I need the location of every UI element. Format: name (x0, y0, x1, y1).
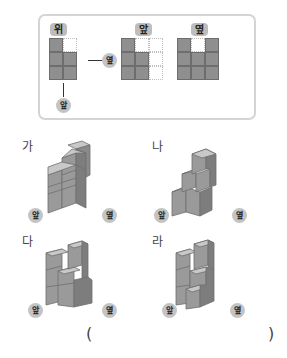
filled-cell (205, 38, 219, 52)
empty-cell (149, 52, 163, 66)
side-marker: 옆 (230, 303, 245, 318)
answer-open-paren: ( (86, 324, 92, 343)
empty-cell (135, 38, 149, 52)
empty-cell (149, 38, 163, 52)
side-marker: 옆 (102, 53, 117, 68)
filled-cell (177, 52, 191, 66)
front-marker: 앞 (56, 98, 71, 113)
empty-cell (149, 66, 163, 80)
filled-cell (135, 52, 149, 66)
filled-cell (205, 66, 219, 80)
filled-cell (121, 66, 135, 80)
side-arrow-icon (88, 60, 102, 61)
front-view-grid (121, 38, 163, 80)
top-view-label: 위 (50, 23, 67, 36)
filled-cell (63, 52, 77, 66)
filled-cell (177, 66, 191, 80)
filled-cell (205, 52, 219, 66)
views-panel: 위 옆 앞 앞 옆 (38, 14, 256, 120)
filled-cell (191, 66, 205, 80)
filled-cell (49, 52, 63, 66)
side-view-grid (177, 38, 219, 80)
front-marker: 앞 (154, 208, 169, 223)
answer-close-paren: ) (268, 324, 274, 343)
front-marker: 앞 (28, 303, 43, 318)
filled-cell (63, 66, 77, 80)
filled-cell (49, 38, 63, 52)
front-marker: 앞 (162, 303, 177, 318)
answer-blank[interactable] (100, 324, 260, 346)
option-ra-figure[interactable]: 앞 옆 (150, 235, 260, 325)
top-view-grid (49, 38, 77, 80)
option-ga-figure[interactable]: 앞 옆 (20, 140, 130, 230)
filled-cell (49, 66, 63, 80)
front-marker: 앞 (28, 208, 43, 223)
side-marker: 옆 (102, 303, 117, 318)
empty-cell (191, 38, 205, 52)
filled-cell (191, 52, 205, 66)
front-arrow-icon (63, 83, 64, 97)
side-marker: 옆 (102, 208, 117, 223)
side-view-label: 옆 (191, 23, 208, 36)
filled-cell (177, 38, 191, 52)
side-marker: 옆 (232, 208, 247, 223)
option-da-figure[interactable]: 앞 옆 (20, 235, 130, 325)
filled-cell (121, 52, 135, 66)
empty-cell (63, 38, 77, 52)
option-na-figure[interactable]: 앞 옆 (150, 140, 260, 230)
front-view-label: 앞 (135, 23, 152, 36)
filled-cell (121, 38, 135, 52)
filled-cell (135, 66, 149, 80)
